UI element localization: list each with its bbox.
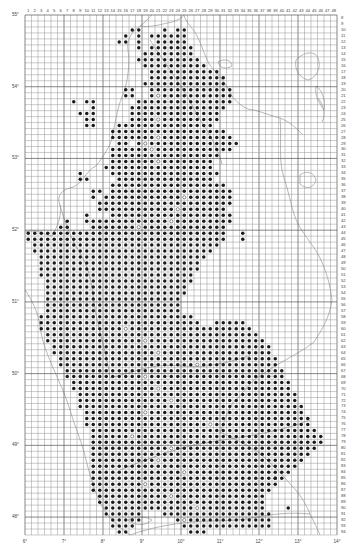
filled-dot-marker [157,249,161,253]
open-circle-marker [209,423,212,426]
filled-dot-marker [118,357,122,361]
filled-dot-marker [111,219,115,223]
filled-dot-marker [209,136,213,140]
filled-dot-marker [144,465,148,469]
filled-dot-marker [85,112,89,116]
filled-dot-marker [150,106,154,110]
latitude-label: 51° [12,300,19,305]
filled-dot-marker [72,315,76,319]
filled-dot-marker [209,249,213,253]
open-circle-marker [144,339,147,342]
filled-dot-marker [189,94,193,98]
filled-dot-marker [241,476,245,480]
filled-dot-marker [144,357,148,361]
filled-dot-marker [202,76,206,80]
row-number-label: 89 [341,500,346,504]
filled-dot-marker [241,327,245,331]
filled-dot-marker [189,208,193,212]
filled-dot-marker [189,184,193,188]
filled-dot-marker [170,387,174,391]
filled-dot-marker [72,261,76,265]
filled-dot-marker [196,387,200,391]
filled-dot-marker [170,435,174,439]
filled-dot-marker [228,357,232,361]
filled-dot-marker [124,184,128,188]
filled-dot-marker [189,345,193,349]
filled-dot-marker [196,142,200,146]
filled-dot-marker [209,106,213,110]
filled-dot-marker [196,399,200,403]
filled-dot-marker [157,208,161,212]
open-circle-marker [183,196,186,199]
filled-dot-marker [183,357,187,361]
filled-dot-marker [137,178,141,182]
filled-dot-marker [280,369,284,373]
filled-dot-marker [189,524,193,528]
filled-dot-marker [53,267,57,271]
filled-dot-marker [98,476,102,480]
filled-dot-marker [248,339,252,343]
filled-dot-marker [202,488,206,492]
filled-dot-marker [306,429,310,433]
filled-dot-marker [59,225,63,229]
filled-dot-marker [176,219,180,223]
filled-dot-marker [196,112,200,116]
filled-dot-marker [189,172,193,176]
filled-dot-marker [183,202,187,206]
latitude-label: 49° [12,443,19,448]
filled-dot-marker [241,417,245,421]
filled-dot-marker [163,213,167,217]
filled-dot-marker [98,375,102,379]
column-number-label: 2 [34,9,36,13]
filled-dot-marker [118,363,122,367]
filled-dot-marker [222,488,226,492]
filled-dot-marker [202,411,206,415]
filled-dot-marker [98,363,102,367]
filled-dot-marker [72,291,76,295]
filled-dot-marker [176,94,180,98]
filled-dot-marker [150,405,154,409]
filled-dot-marker [163,423,167,427]
filled-dot-marker [170,267,174,271]
filled-dot-marker [209,94,213,98]
row-number-label: 21 [341,94,346,98]
filled-dot-marker [176,345,180,349]
filled-dot-marker [170,172,174,176]
row-number-label: 16 [341,64,346,68]
column-number-label: 6 [60,9,62,13]
filled-dot-marker [222,327,226,331]
filled-dot-marker [254,465,258,469]
filled-dot-marker [176,88,180,92]
filled-dot-marker [215,196,219,200]
filled-dot-marker [124,321,128,325]
filled-dot-marker [131,476,135,480]
filled-dot-marker [183,429,187,433]
column-number-label: 8 [73,9,75,13]
filled-dot-marker [170,34,174,38]
filled-dot-marker [79,237,83,241]
filled-dot-marker [124,309,128,313]
filled-dot-marker [163,441,167,445]
filled-dot-marker [98,202,102,206]
filled-dot-marker [131,231,135,235]
column-number-label: 4 [47,9,49,13]
filled-dot-marker [209,345,213,349]
filled-dot-marker [241,375,245,379]
filled-dot-marker [261,470,265,474]
filled-dot-marker [215,369,219,373]
filled-dot-marker [79,333,83,337]
row-number-label: 68 [341,374,346,378]
filled-dot-marker [183,154,187,158]
filled-dot-marker [261,476,265,480]
filled-dot-marker [163,172,167,176]
filled-dot-marker [111,417,115,421]
filled-dot-marker [222,417,226,421]
filled-dot-marker [131,459,135,463]
filled-dot-marker [176,130,180,134]
filled-dot-marker [183,82,187,86]
filled-dot-marker [131,273,135,277]
filled-dot-marker [189,423,193,427]
filled-dot-marker [189,154,193,158]
filled-dot-marker [209,112,213,116]
filled-dot-marker [189,130,193,134]
